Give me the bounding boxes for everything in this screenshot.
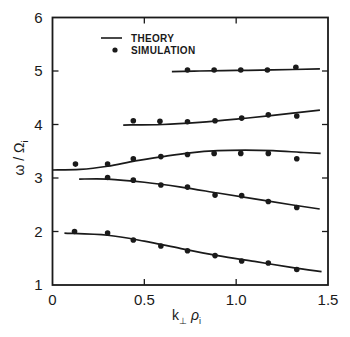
simulation-point [238, 67, 244, 73]
simulation-point [239, 258, 245, 264]
simulation-point [105, 230, 111, 236]
theory-curve-1 [64, 233, 321, 272]
theory-curve-4 [123, 110, 320, 125]
simulation-point [131, 156, 137, 162]
dispersion-chart: 00.51.01.5123456 THEORY SIMULATION ω / Ω… [0, 0, 350, 337]
y-tick-label: 2 [34, 223, 42, 240]
simulation-points [72, 64, 300, 272]
simulation-point [131, 177, 137, 183]
y-tick-label: 6 [34, 9, 42, 26]
simulation-point [105, 175, 111, 181]
y-tick-label: 1 [34, 276, 42, 293]
simulation-point [185, 67, 191, 73]
simulation-point [239, 193, 245, 199]
simulation-point [158, 243, 164, 249]
legend-theory-label: THEORY [131, 33, 174, 44]
simulation-point [131, 237, 137, 243]
x-tick-label: 1.0 [226, 291, 247, 308]
y-tick-label: 4 [34, 116, 42, 133]
svg-text:k⊥ ρi: k⊥ ρi [172, 307, 201, 326]
legend: THEORY SIMULATION [101, 33, 195, 56]
simulation-point [73, 161, 79, 167]
simulation-point [265, 67, 271, 73]
y-tick-label: 5 [34, 62, 42, 79]
simulation-point [294, 113, 300, 119]
simulation-point [293, 64, 299, 70]
simulation-point [294, 205, 300, 211]
legend-simulation-label: SIMULATION [131, 45, 195, 56]
simulation-point [211, 67, 217, 73]
simulation-point [158, 154, 164, 160]
theory-curves [53, 69, 322, 272]
simulation-point [131, 118, 137, 124]
simulation-point [266, 151, 272, 157]
simulation-point [212, 118, 218, 124]
simulation-point [266, 199, 272, 205]
x-axis-label: k⊥ ρi [172, 307, 201, 326]
simulation-point [157, 118, 163, 124]
simulation-point [266, 260, 272, 266]
x-tick-label: 1.5 [318, 291, 339, 308]
y-tick-label: 3 [34, 169, 42, 186]
svg-text:ω / Ωi: ω / Ωi [11, 140, 30, 175]
legend-simulation-dot-icon [112, 47, 117, 52]
simulation-point [185, 119, 191, 125]
x-tick-label: 0 [48, 291, 56, 308]
simulation-point [185, 152, 191, 158]
simulation-point [158, 182, 164, 188]
y-axis-label: ω / Ωi [11, 140, 30, 175]
simulation-point [294, 267, 300, 273]
simulation-point [212, 192, 218, 198]
simulation-point [72, 229, 78, 235]
x-tick-label: 0.5 [134, 291, 155, 308]
simulation-point [211, 151, 217, 157]
simulation-point [212, 253, 218, 259]
theory-curve-2 [79, 179, 320, 209]
simulation-point [105, 161, 111, 167]
simulation-point [185, 248, 191, 254]
simulation-point [185, 184, 191, 190]
simulation-point [266, 112, 272, 118]
simulation-point [239, 115, 245, 121]
simulation-point [238, 151, 244, 157]
simulation-point [294, 156, 300, 162]
